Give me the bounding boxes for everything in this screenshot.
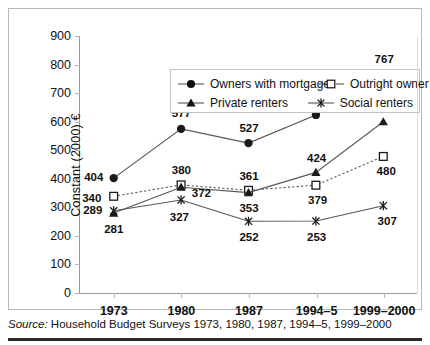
- legend-item-owners-with-mortgage[interactable]: Owners with mortgage: [177, 77, 317, 91]
- x-tick-label: 1987: [235, 304, 263, 318]
- legend-label: Outright owner: [350, 77, 429, 91]
- y-tick-label: 700: [50, 86, 71, 100]
- y-tick-label: 300: [50, 200, 71, 214]
- x-tick-mark: [384, 293, 385, 298]
- x-tick-label: 1999–2000: [353, 304, 416, 318]
- data-label: 353: [239, 202, 258, 214]
- data-point-filled-circle: [110, 174, 118, 182]
- data-point-filled-triangle: [379, 117, 388, 125]
- data-point-open-square: [110, 192, 118, 200]
- legend-label: Private renters: [210, 96, 288, 110]
- data-point-open-square: [312, 181, 320, 189]
- filled-circle-key-icon: [177, 77, 205, 91]
- data-label: 253: [307, 231, 326, 243]
- data-point-filled-triangle: [311, 168, 320, 176]
- bottom-rule: [8, 338, 422, 341]
- legend-item-social-renters[interactable]: Social renters: [307, 96, 413, 110]
- y-tick-label: 400: [50, 172, 71, 186]
- data-label: 289: [83, 204, 102, 216]
- data-point-open-square: [379, 153, 387, 161]
- data-point-filled-circle: [244, 139, 252, 147]
- data-label: 340: [82, 192, 101, 204]
- legend-label: Social renters: [340, 96, 413, 110]
- data-label: 252: [239, 231, 258, 243]
- open-square-key-icon: [317, 77, 345, 91]
- data-label: 327: [170, 211, 189, 223]
- data-label: 404: [84, 171, 103, 183]
- source-prefix: Source:: [8, 318, 48, 330]
- filled-triangle-key-icon: [177, 96, 205, 110]
- x-tick-mark: [317, 293, 318, 298]
- x-tick-label: 1994–5: [296, 304, 338, 318]
- data-label: 281: [104, 223, 123, 235]
- x-tick-label: 1980: [167, 304, 195, 318]
- data-label: 307: [378, 215, 397, 227]
- legend-label: Owners with mortgage: [210, 77, 330, 91]
- x-tick-mark: [114, 293, 115, 298]
- figure-frame: Constant (2000) € 9008007006005004003002…: [8, 8, 422, 310]
- data-label: 380: [172, 164, 191, 176]
- x-tick-label: 1973: [100, 304, 128, 318]
- legend-row: Private renters: [177, 93, 413, 112]
- data-point-cross-x: [380, 201, 387, 210]
- source-text: Household Budget Surveys 1973, 1980, 198…: [51, 318, 392, 330]
- y-tick-label: 100: [50, 257, 71, 271]
- y-tick-label: 800: [50, 58, 71, 72]
- chart-legend: Owners with mortgage Outright owner: [170, 69, 420, 113]
- legend-row: Owners with mortgage Outright owner: [177, 74, 413, 93]
- data-label: 767: [375, 53, 394, 65]
- source-caption: Source: Household Budget Surveys 1973, 1…: [8, 318, 422, 330]
- data-label: 372: [192, 187, 211, 199]
- chart-figure: Constant (2000) € 9008007006005004003002…: [0, 0, 430, 345]
- data-label: 527: [239, 122, 258, 134]
- data-label: 424: [307, 152, 326, 164]
- data-label: 379: [308, 194, 327, 206]
- x-tick-mark: [249, 293, 250, 298]
- y-tick-label: 200: [50, 229, 71, 243]
- y-tick-label: 600: [50, 115, 71, 129]
- data-point-filled-circle: [177, 125, 185, 133]
- series-line-filled-triangle: [114, 122, 384, 213]
- plot-area: Constant (2000) € 9008007006005004003002…: [79, 37, 417, 294]
- data-label: 361: [239, 170, 258, 182]
- y-tick-mark: [75, 293, 80, 294]
- legend-item-outright-owner[interactable]: Outright owner: [317, 77, 429, 91]
- cross-x-key-icon: [307, 96, 335, 110]
- y-tick-label: 0: [64, 286, 71, 300]
- legend-item-private-renters[interactable]: Private renters: [177, 96, 307, 110]
- y-tick-label: 900: [50, 29, 71, 43]
- y-tick-label: 500: [50, 143, 71, 157]
- x-tick-mark: [181, 293, 182, 298]
- data-label: 480: [377, 165, 396, 177]
